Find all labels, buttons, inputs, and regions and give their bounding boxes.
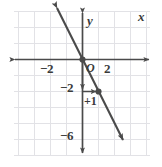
point-origin <box>79 56 85 62</box>
run-annotation-label: +1 <box>84 95 97 107</box>
y-tick-label-neg-6: −6 <box>60 129 73 142</box>
coordinate-plane-svg <box>0 0 162 167</box>
graph-figure: x y O −2 2 −2 −6 +1 <box>0 0 162 167</box>
x-tick-label-2: 2 <box>104 62 110 75</box>
x-axis-label: x <box>138 10 145 23</box>
x-tick-label-neg-2: −2 <box>40 62 53 75</box>
origin-label: O <box>86 62 95 74</box>
y-tick-label-neg-2: −2 <box>60 81 73 94</box>
y-axis-label: y <box>87 14 93 27</box>
